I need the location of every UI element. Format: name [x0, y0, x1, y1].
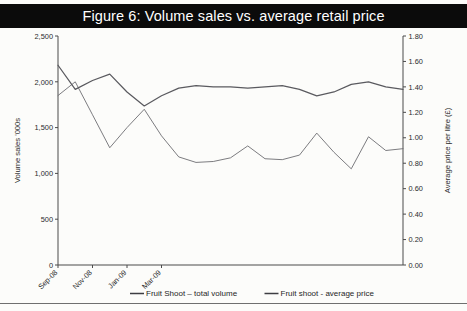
legend-label-total-volume: Fruit Shoot – total volume [146, 289, 238, 298]
x-axis: Sep-08Nov-08Jan-09Mar-09 [36, 265, 403, 291]
y-axis-right-title: Average price per litre (£) [443, 107, 452, 193]
series-line-average-price [58, 65, 403, 106]
y-axis-right-tick-label: 0.00 [409, 261, 423, 270]
y-axis-left-tick-label: 1,500 [35, 123, 54, 132]
x-axis-tick-label: Jan-09 [106, 268, 128, 290]
chart-plot-area: 05001,0001,5002,0002,500Volume sales '00… [0, 28, 467, 311]
y-axis-left-tick-label: 2,500 [35, 32, 54, 41]
x-axis-tick-label: Mar-09 [140, 268, 163, 291]
y-axis-right-tick-label: 1.80 [409, 32, 423, 41]
y-axis-right-tick-label: 0.80 [409, 159, 423, 168]
y-axis-right-tick-label: 0.40 [409, 210, 423, 219]
y-axis-left-title: Volume sales '000s [13, 118, 22, 183]
y-axis-right-tick-label: 1.40 [409, 83, 423, 92]
y-axis-right-tick-label: 1.60 [409, 57, 423, 66]
figure-title-bar: Figure 6: Volume sales vs. average retai… [0, 4, 467, 28]
bottom-divider [0, 303, 467, 304]
x-axis-tick-label: Sep-08 [36, 268, 59, 291]
x-axis-tick-label: Nov-08 [71, 268, 94, 291]
y-axis-left: 05001,0001,5002,0002,500Volume sales '00… [13, 32, 58, 270]
chart-legend: Fruit Shoot – total volumeFruit shoot - … [130, 289, 374, 298]
y-axis-right-tick-label: 0.60 [409, 184, 423, 193]
series-lines [58, 65, 403, 169]
y-axis-right-tick-label: 1.00 [409, 133, 423, 142]
figure-title: Figure 6: Volume sales vs. average retai… [82, 8, 384, 24]
y-axis-left-tick-label: 500 [41, 215, 53, 224]
series-line-total-volume [58, 82, 403, 169]
y-axis-left-tick-label: 2,000 [35, 78, 54, 87]
y-axis-right: 0.000.200.400.600.801.001.201.401.601.80… [403, 32, 452, 270]
legend-label-average-price: Fruit shoot - average price [281, 289, 375, 298]
y-axis-left-tick-label: 1,000 [35, 169, 54, 178]
figure-container: Figure 6: Volume sales vs. average retai… [0, 0, 467, 311]
y-axis-right-tick-label: 1.20 [409, 108, 423, 117]
y-axis-right-tick-label: 0.20 [409, 235, 423, 244]
